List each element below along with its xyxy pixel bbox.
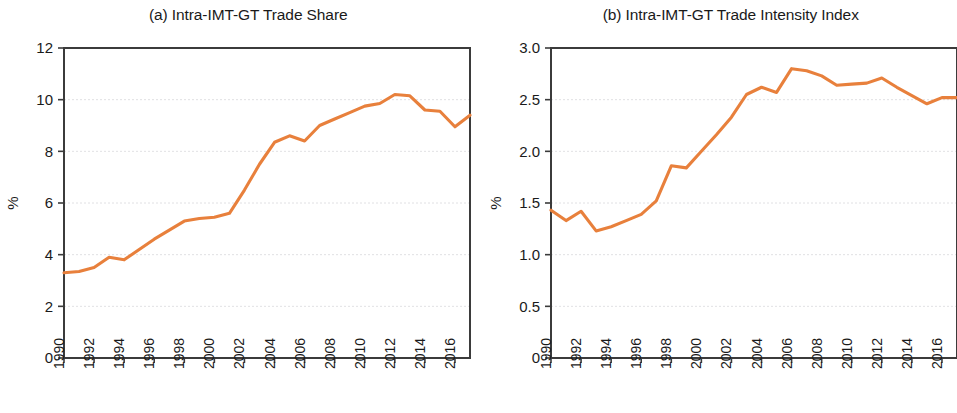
y-tick-label: 4: [45, 246, 53, 263]
x-tick-label: 1996: [141, 338, 157, 369]
y-tick-label: 3.0: [519, 39, 540, 56]
series-line: [64, 95, 470, 273]
x-tick-label: 2004: [262, 338, 278, 369]
x-tick-label: 2016: [442, 338, 458, 369]
x-tick-label: 1992: [81, 338, 97, 369]
panel-b-svg: 00.51.01.52.02.53.0%19901992199419961998…: [479, 0, 957, 413]
x-tick-label: 2014: [412, 338, 428, 369]
x-tick-label: 2002: [718, 338, 734, 369]
x-tick-label: 1998: [658, 338, 674, 369]
x-tick-label: 1990: [538, 338, 554, 369]
y-tick-label: 10: [36, 91, 53, 108]
x-tick-label: 1994: [111, 338, 127, 369]
x-tick-label: 2008: [322, 338, 338, 369]
x-tick-label: 2006: [292, 338, 308, 369]
x-tick-label: 1998: [171, 338, 187, 369]
x-tick-label: 2012: [868, 338, 884, 369]
x-tick-label: 1996: [628, 338, 644, 369]
y-axis-title: %: [4, 196, 21, 209]
x-tick-label: 2004: [748, 338, 764, 369]
x-tick-label: 2006: [778, 338, 794, 369]
x-tick-label: 2010: [838, 338, 854, 369]
x-tick-label: 1994: [598, 338, 614, 369]
chart-panel-b: (b) Intra-IMT-GT Trade Intensity Index 0…: [479, 0, 957, 413]
chart-panel-a: (a) Intra-IMT-GT Trade Share 024681012%1…: [0, 0, 479, 413]
y-tick-label: 1.5: [519, 194, 540, 211]
x-tick-label: 2000: [688, 338, 704, 369]
x-tick-label: 2000: [201, 338, 217, 369]
y-tick-label: 2.5: [519, 91, 540, 108]
panel-a-plot: 024681012%199019921994199619982000200220…: [0, 0, 479, 413]
x-tick-label: 2014: [898, 338, 914, 369]
series-line: [551, 69, 957, 231]
x-tick-label: 2008: [808, 338, 824, 369]
x-tick-label: 2012: [382, 338, 398, 369]
x-tick-label: 2010: [352, 338, 368, 369]
y-tick-label: 2.0: [519, 143, 540, 160]
y-tick-label: 1.0: [519, 246, 540, 263]
y-tick-label: 0.5: [519, 298, 540, 315]
x-tick-label: 2016: [928, 338, 944, 369]
x-tick-label: 1990: [51, 338, 67, 369]
y-tick-label: 8: [45, 143, 53, 160]
panel-a-svg: 024681012%199019921994199619982000200220…: [0, 0, 478, 413]
x-tick-label: 2002: [231, 338, 247, 369]
panel-b-plot: 00.51.01.52.02.53.0%19901992199419961998…: [479, 0, 957, 413]
figure-container: (a) Intra-IMT-GT Trade Share 024681012%1…: [0, 0, 957, 413]
y-tick-label: 12: [36, 39, 53, 56]
y-tick-label: 2: [45, 298, 53, 315]
y-tick-label: 6: [45, 194, 53, 211]
x-tick-label: 1992: [568, 338, 584, 369]
y-axis-title: %: [487, 196, 504, 209]
